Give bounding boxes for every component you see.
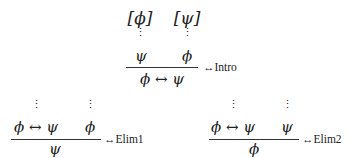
elim2-conclusion: ϕ <box>249 142 259 157</box>
intro-dots-right: ⋮ <box>182 31 193 35</box>
intro-assumption-psi: [ψ] <box>174 10 201 27</box>
intro-premise-phi: ϕ <box>182 49 192 64</box>
intro-conclusion: ϕ ↔ ψ <box>140 72 184 87</box>
elim1-dots-right: ⋮ <box>85 103 96 107</box>
intro-inference-line <box>126 67 198 68</box>
elim1-premise-phi: ϕ <box>85 120 95 135</box>
intro-premise-psi: ψ <box>135 49 147 64</box>
elim1-premise-iff: ϕ ↔ ψ <box>14 120 58 135</box>
elim2-premise-iff: ϕ ↔ ψ <box>211 120 255 135</box>
elim2-dots-left: ⋮ <box>228 103 239 107</box>
elim2-label: ↔Elim2 <box>302 134 342 146</box>
elim2-premise-psi: ψ <box>281 120 293 135</box>
intro-assumption-phi: [ϕ] <box>128 10 153 27</box>
elim1-label: ↔Elim1 <box>104 134 144 146</box>
elim1-dots-left: ⋮ <box>31 103 42 107</box>
elim1-conclusion: ψ <box>49 142 61 157</box>
elim2-dots-right: ⋮ <box>282 103 293 107</box>
intro-dots-left: ⋮ <box>135 31 146 35</box>
intro-label: ↔Intro <box>203 62 237 74</box>
